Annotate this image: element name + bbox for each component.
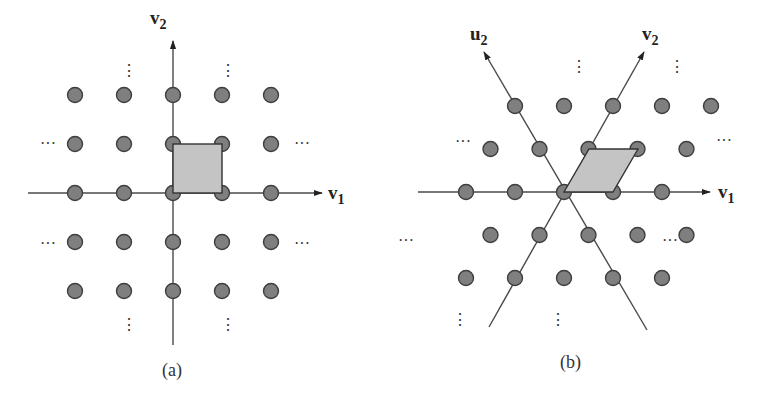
lattice-point (532, 142, 547, 157)
panel-a: v2 v1 ··· ··· ··· ··· ⋮ ⋮ ⋮ ⋮ (a) (28, 7, 345, 381)
lattice-point (459, 271, 474, 286)
lattice-point (508, 185, 523, 200)
lattice-point (508, 271, 523, 286)
lattice-point (166, 88, 181, 103)
lattice-point (264, 186, 279, 201)
u2-label-b: u2 (470, 23, 488, 48)
lattice-point (166, 235, 181, 250)
lattice-point (704, 99, 719, 114)
lattice-point (557, 271, 572, 286)
v1-label-b-sub: 1 (728, 191, 735, 206)
fundamental-cell-square (173, 144, 222, 193)
ellipsis-left-a-1: ··· (40, 135, 56, 152)
fundamental-cell-parallelogram (564, 149, 638, 192)
lattice-point (557, 99, 572, 114)
lattice-point (215, 235, 230, 250)
ellipsis-left-b-2: ··· (398, 232, 414, 249)
ellipsis-bottom-b-2: ⋮ (550, 311, 566, 328)
lattice-point (630, 228, 645, 243)
v1-label-a: v1 (328, 182, 345, 207)
panel-b: u2 v2 v1 ··· ··· ··· ··· ⋮ ⋮ ⋮ ⋮ (b) (398, 23, 735, 373)
lattice-point (117, 88, 132, 103)
lattice-point (655, 99, 670, 114)
lattice-point (679, 142, 694, 157)
v1-label-b-main: v (718, 181, 728, 202)
lattice-point (117, 137, 132, 152)
lattice-point (68, 235, 83, 250)
v1-label-a-main: v (328, 182, 338, 203)
lattice-point (215, 88, 230, 103)
v1-label-b: v1 (718, 181, 735, 206)
ellipsis-bottom-a-2: ⋮ (220, 316, 236, 333)
caption-a: (a) (162, 360, 182, 381)
ellipsis-top-a-1: ⋮ (121, 62, 137, 79)
lattice-point (68, 284, 83, 299)
lattice-point (117, 235, 132, 250)
v2-label-a: v2 (150, 7, 167, 32)
ellipsis-bottom-b-1: ⋮ (452, 311, 468, 328)
lattice-point (264, 284, 279, 299)
lattice-point (532, 228, 547, 243)
lattice-point (264, 235, 279, 250)
lattice-point (581, 228, 596, 243)
ellipsis-right-a-2: ··· (294, 235, 310, 252)
lattice-figure: v2 v1 ··· ··· ··· ··· ⋮ ⋮ ⋮ ⋮ (a) u2 v2 … (0, 0, 764, 395)
u2-label-b-sub: 2 (481, 33, 488, 48)
lattice-point (215, 284, 230, 299)
lattice-point (68, 137, 83, 152)
lattice-point (166, 284, 181, 299)
lattice-point (606, 271, 621, 286)
caption-b: (b) (560, 352, 581, 373)
lattice-point (68, 88, 83, 103)
v2-label-a-main: v (150, 7, 160, 28)
lattice-point (68, 186, 83, 201)
v2-label-b: v2 (642, 23, 659, 48)
lattice-point (459, 185, 474, 200)
v2-label-a-sub: 2 (160, 17, 167, 32)
ellipsis-left-b-1: ··· (455, 133, 471, 150)
lattice-point (117, 186, 132, 201)
lattice-point (483, 228, 498, 243)
ellipsis-top-b-2: ⋮ (669, 58, 685, 75)
v1-label-a-sub: 1 (338, 192, 345, 207)
ellipsis-right-b-1: ··· (716, 132, 732, 149)
ellipsis-bottom-a-1: ⋮ (121, 316, 137, 333)
ellipsis-right-b-2: ··· (662, 232, 678, 249)
lattice-point (508, 99, 523, 114)
lattice-point (117, 284, 132, 299)
lattice-point (679, 228, 694, 243)
ellipsis-left-a-2: ··· (40, 235, 56, 252)
lattice-point (264, 88, 279, 103)
v2-label-b-main: v (642, 23, 652, 44)
v2-label-b-sub: 2 (652, 33, 659, 48)
ellipsis-top-b-1: ⋮ (571, 58, 587, 75)
lattice-point (606, 99, 621, 114)
lattice-point (483, 142, 498, 157)
lattice-point (264, 137, 279, 152)
ellipsis-top-a-2: ⋮ (220, 62, 236, 79)
lattice-point (655, 271, 670, 286)
ellipsis-right-a-1: ··· (294, 135, 310, 152)
u2-label-b-main: u (470, 23, 481, 44)
lattice-point (655, 185, 670, 200)
